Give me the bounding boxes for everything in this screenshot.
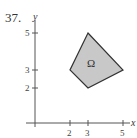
y-axis-label: y [32,11,38,22]
region-omega [70,33,123,88]
coordinate-plot: y x 5 3 2 2 3 5 Ω [0,0,137,138]
x-axis-label: x [130,117,136,128]
y-tick-label-2: 2 [25,83,30,93]
y-tick-label-3: 3 [25,65,30,75]
y-tick-label-5: 5 [25,28,30,38]
x-tick-label-3: 3 [85,128,90,138]
region-label: Ω [87,57,95,69]
x-tick-label-5: 5 [120,128,125,138]
x-tick-label-2: 2 [67,128,72,138]
